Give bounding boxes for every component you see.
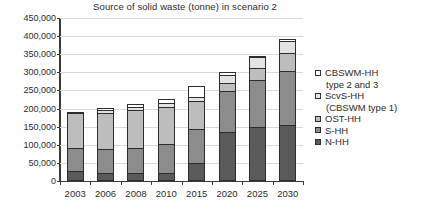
bar-group[interactable]	[242, 18, 272, 181]
x-axis-tick-label: 2008	[121, 184, 151, 204]
x-axis-tick-label: 2010	[151, 184, 181, 204]
bar-segment	[188, 163, 205, 181]
x-axis-tick-mark	[151, 181, 152, 185]
y-axis-tick-label: 0	[4, 176, 56, 186]
legend-item[interactable]: OST-HH	[315, 113, 421, 125]
stacked-bar[interactable]	[97, 108, 114, 182]
y-axis-labels: 050,000100,000150,000200,000250,000300,0…	[0, 0, 56, 209]
y-axis-tick-label: 100,000	[4, 140, 56, 150]
legend-swatch	[315, 127, 321, 133]
stacked-bar[interactable]	[158, 99, 175, 181]
stacked-bar[interactable]	[279, 39, 296, 181]
bar-group[interactable]	[121, 18, 151, 181]
chart-title: Source of solid waste (tonne) in scenari…	[60, 1, 310, 12]
y-axis-tick-label: 350,000	[4, 49, 56, 59]
stacked-bar[interactable]	[67, 112, 84, 181]
x-axis-tick-mark	[182, 181, 183, 185]
x-axis-tick-label: 2003	[60, 184, 90, 204]
x-axis-tick-mark	[121, 181, 122, 185]
bar-segment	[127, 173, 144, 181]
legend-item[interactable]: ScvS-HH	[315, 90, 421, 102]
legend-item[interactable]: S-HH	[315, 125, 421, 137]
x-axis-tick-mark	[273, 181, 274, 185]
chart-container: Source of solid waste (tonne) in scenari…	[0, 0, 421, 209]
bar-segment	[249, 80, 266, 127]
legend-label: S-HH	[325, 125, 348, 137]
bar-segment	[279, 125, 296, 181]
bar-group[interactable]	[273, 18, 303, 181]
legend-label: OST-HH	[325, 113, 361, 125]
bar-segment	[67, 171, 84, 181]
legend-label: ScvS-HH	[325, 90, 364, 102]
stacked-bar[interactable]	[127, 104, 144, 181]
x-axis-tick-label: 2030	[273, 184, 303, 204]
bar-segment	[188, 86, 205, 96]
bar-segment	[249, 57, 266, 68]
bar-group[interactable]	[90, 18, 120, 181]
stacked-bar[interactable]	[219, 72, 236, 181]
bar-segment	[127, 110, 144, 147]
bar-segment	[127, 148, 144, 174]
y-axis-tick-label: 450,000	[4, 13, 56, 23]
legend-label: CBSWM-HH	[325, 67, 378, 79]
y-axis-tick-label: 300,000	[4, 67, 56, 77]
stacked-bar[interactable]	[249, 56, 266, 181]
legend-swatch	[315, 139, 321, 145]
bar-segment	[97, 173, 114, 181]
x-axis-tick-mark	[90, 181, 91, 185]
x-axis-tick-label: 2020	[212, 184, 242, 204]
bar-segment	[97, 113, 114, 149]
x-axis-tick-mark	[242, 181, 243, 185]
legend-swatch	[315, 70, 321, 76]
legend-swatch	[315, 116, 321, 122]
bar-segment	[249, 127, 266, 181]
x-axis-tick-label: 2006	[90, 184, 120, 204]
plot-area	[60, 18, 303, 181]
bar-segment	[279, 53, 296, 71]
bar-group[interactable]	[182, 18, 212, 181]
bar-segment	[219, 91, 236, 133]
y-axis-tick-label: 400,000	[4, 31, 56, 41]
bar-segment	[67, 113, 84, 148]
bar-series-group	[60, 18, 303, 181]
y-axis-tick-label: 150,000	[4, 122, 56, 132]
x-axis-tick-label: 2025	[242, 184, 272, 204]
legend-swatch	[315, 93, 321, 99]
y-axis-tick-label: 50,000	[4, 158, 56, 168]
x-axis-tick-mark	[212, 181, 213, 185]
bar-segment	[219, 75, 236, 83]
bar-segment	[97, 149, 114, 173]
bar-segment	[188, 101, 205, 129]
bar-group[interactable]	[212, 18, 242, 181]
chart-legend: CBSWM-HHtype 2 and 3ScvS-HH(CBSWM type 1…	[315, 67, 421, 148]
bar-segment	[279, 41, 296, 53]
legend-label-continuation: type 2 and 3	[315, 79, 421, 91]
y-axis-tick-label: 250,000	[4, 85, 56, 95]
legend-item[interactable]: N-HH	[315, 136, 421, 148]
bar-segment	[158, 144, 175, 173]
bar-group[interactable]	[151, 18, 181, 181]
legend-item[interactable]: CBSWM-HH	[315, 67, 421, 79]
y-axis-tick-label: 200,000	[4, 104, 56, 114]
x-axis-tick-mark	[60, 181, 61, 185]
stacked-bar[interactable]	[188, 86, 205, 181]
bar-segment	[249, 68, 266, 80]
bar-segment	[219, 132, 236, 181]
bar-segment	[158, 173, 175, 181]
x-axis-tick-label: 2015	[182, 184, 212, 204]
bar-group[interactable]	[60, 18, 90, 181]
legend-label: N-HH	[325, 136, 349, 148]
x-axis-labels: 20032006200820102015202020252030	[60, 184, 303, 204]
legend-label-continuation: (CBSWM type 1)	[315, 102, 421, 114]
x-axis-tick-mark	[303, 181, 304, 185]
bar-segment	[67, 148, 84, 171]
bar-segment	[219, 83, 236, 91]
bar-segment	[279, 71, 296, 126]
bar-segment	[158, 107, 175, 144]
bar-segment	[188, 129, 205, 162]
